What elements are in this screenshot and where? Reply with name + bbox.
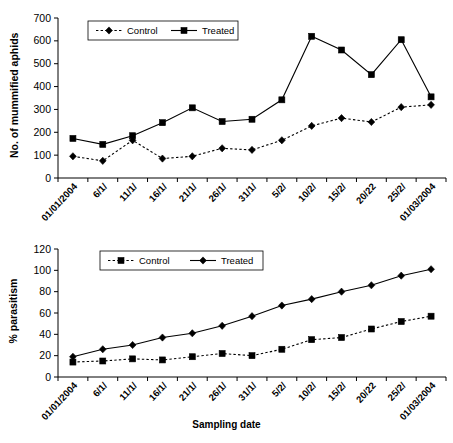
data-point — [428, 101, 435, 108]
series-treated — [70, 33, 434, 147]
series-treated — [70, 266, 435, 361]
x-tick-label: 01/01/2004 — [39, 180, 80, 223]
data-point — [398, 272, 405, 279]
x-tick-label: 25/2/ — [385, 380, 408, 403]
data-point — [368, 118, 375, 125]
x-tick-label: 15/2/ — [326, 380, 349, 403]
chart-panel-mummified-aphids: No. of mummified aphids 0100200300400500… — [0, 0, 453, 225]
data-point — [130, 356, 136, 362]
data-point — [249, 353, 255, 359]
y-tick-label: 20 — [39, 349, 51, 361]
data-point — [309, 33, 315, 39]
x-tick-label: 16/1/ — [146, 181, 169, 204]
legend-label: Control — [139, 255, 170, 266]
legend-swatch-marker — [181, 28, 187, 34]
y-tick-label: 100 — [33, 149, 51, 161]
data-point — [398, 104, 405, 111]
y-tick-label: 40 — [39, 328, 51, 340]
x-tick-labels: 01/01/20046/1/11/1/16/1/21/1/26/1/31/1/5… — [39, 379, 438, 422]
x-tick-label: 16/1/ — [146, 380, 169, 403]
data-point — [129, 341, 136, 348]
legend-label: Control — [127, 25, 158, 36]
data-point — [219, 145, 226, 152]
data-point — [189, 354, 195, 360]
legend-label: Treated — [221, 255, 253, 266]
data-point — [159, 120, 165, 126]
x-tick-label: 11/1/ — [117, 380, 139, 403]
data-point — [249, 146, 256, 153]
data-point — [189, 330, 196, 337]
series-line — [73, 36, 431, 144]
data-point — [339, 47, 345, 53]
data-point — [338, 288, 345, 295]
x-tick-label: 10/2/ — [296, 380, 319, 403]
x-tick-label: 25/2/ — [385, 181, 408, 204]
x-tick-label: 20/22 — [354, 181, 378, 206]
y-tick-label: 500 — [33, 57, 51, 69]
y-tick-label: 200 — [33, 126, 51, 138]
data-point — [130, 133, 136, 139]
data-point — [189, 153, 196, 160]
data-point — [159, 334, 166, 341]
data-point — [159, 357, 165, 363]
y-tick-label: 80 — [39, 285, 51, 297]
x-tick-label: 26/1/ — [206, 380, 229, 403]
x-tick-label: 6/1/ — [90, 181, 109, 200]
data-point — [219, 322, 226, 329]
plot-area-chart2: 02040608010012001/01/20046/1/11/1/16/1/2… — [0, 235, 453, 443]
data-point — [308, 296, 315, 303]
x-tick-labels: 01/01/20046/1/11/1/16/1/21/1/26/1/31/1/5… — [39, 180, 438, 223]
x-tick-label: 01/01/2004 — [39, 379, 80, 422]
data-point — [99, 157, 106, 164]
y-tick-label: 0 — [45, 172, 51, 184]
plot-area-chart1: 010020030040050060070001/01/20046/1/11/1… — [0, 0, 453, 225]
series-control — [70, 101, 435, 164]
data-point — [70, 153, 77, 160]
data-point — [279, 346, 285, 352]
data-point — [249, 116, 255, 122]
x-tick-label: 15/2/ — [326, 181, 349, 204]
data-point — [249, 313, 256, 320]
data-point — [398, 37, 404, 43]
data-point — [368, 72, 374, 78]
data-point — [219, 351, 225, 357]
legend: ControlTreated — [100, 251, 263, 270]
series-control — [70, 313, 434, 365]
legend-label: Treated — [202, 25, 234, 36]
data-point — [159, 155, 166, 162]
x-tick-label: 26/1/ — [206, 181, 229, 204]
data-point — [100, 141, 106, 147]
x-tick-label: 5/2/ — [269, 181, 288, 200]
data-point — [428, 94, 434, 100]
x-tick-label: 21/1/ — [176, 380, 199, 403]
y-tick-label: 700 — [33, 12, 51, 24]
data-point — [398, 319, 404, 325]
y-tick-label: 300 — [33, 103, 51, 115]
figure-two-line-charts: No. of mummified aphids 0100200300400500… — [0, 0, 453, 443]
data-point — [70, 135, 76, 141]
data-point — [189, 105, 195, 111]
x-tick-label: 21/1/ — [176, 181, 199, 204]
x-tick-label: 31/1/ — [236, 380, 259, 403]
chart-panel-percent-parasitism: % parasitism 02040608010012001/01/20046/… — [0, 235, 453, 443]
data-point — [308, 122, 315, 129]
data-point — [339, 335, 345, 341]
data-point — [309, 337, 315, 343]
data-point — [428, 313, 434, 319]
y-tick-label: 0 — [45, 371, 51, 383]
y-tick-label: 120 — [33, 243, 51, 255]
data-point — [219, 119, 225, 125]
y-tick-label: 400 — [33, 80, 51, 92]
data-point — [368, 326, 374, 332]
data-point — [99, 346, 106, 353]
x-tick-label: 5/2/ — [269, 380, 288, 399]
y-tick-label: 100 — [33, 264, 51, 276]
data-point — [278, 137, 285, 144]
legend: ControlTreated — [88, 21, 238, 40]
x-tick-label: 10/2/ — [296, 181, 319, 204]
y-tick-label: 60 — [39, 307, 51, 319]
x-tick-label: 20/22 — [354, 380, 378, 405]
data-point — [338, 115, 345, 122]
data-point — [428, 266, 435, 273]
data-point — [100, 358, 106, 364]
